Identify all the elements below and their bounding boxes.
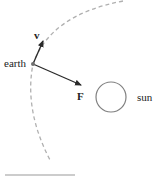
velocity-arrow [33,41,43,64]
force-label: F [77,90,84,102]
earth-label: earth [4,57,26,69]
orbit-diagram: earth v F sun [0,0,160,176]
sun-label: sun [137,91,153,103]
velocity-label: v [34,29,40,41]
sun-circle [96,82,126,112]
earth-dot [31,62,35,66]
orbit-path [31,1,123,160]
force-arrow [33,64,81,85]
